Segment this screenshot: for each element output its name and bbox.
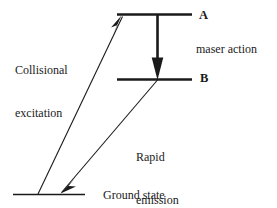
collisional-excitation-label: Collisional excitation (15, 35, 68, 148)
collisional-excitation-label-line1: Collisional (15, 63, 68, 77)
collisional-excitation-label-line2: excitation (15, 106, 68, 120)
maser-action-label: maser action (196, 42, 257, 56)
level-label-a: A (199, 8, 208, 23)
rapid-emission-label: Rapid emission (136, 122, 179, 208)
maser-action-arrowhead (152, 58, 164, 81)
rapid-emission-label-line2: emission (136, 193, 179, 207)
level-label-b: B (200, 71, 208, 86)
rapid-emission-label-line1: Rapid (136, 150, 179, 164)
rapid-emission-arrowhead (61, 178, 77, 194)
energy-level-diagram: A B Ground state Collisional excitation … (0, 0, 277, 208)
